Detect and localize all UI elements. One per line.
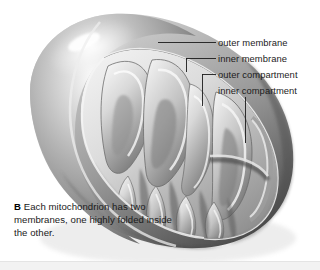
- caption-marker: B: [14, 201, 21, 212]
- caption-text: Each mitochondrion has two membranes, on…: [14, 201, 172, 238]
- label-outer-compartment: outer compartment: [218, 69, 298, 80]
- label-outer-membrane: outer membrane: [218, 37, 287, 48]
- bottom-divider: [0, 261, 320, 270]
- label-inner-membrane: inner membrane: [218, 53, 287, 64]
- label-inner-compartment: inner compartment: [218, 85, 297, 96]
- mitochondrion-figure: outer membrane inner membrane outer comp…: [0, 0, 320, 270]
- figure-caption: B Each mitochondrion has two membranes, …: [14, 200, 174, 240]
